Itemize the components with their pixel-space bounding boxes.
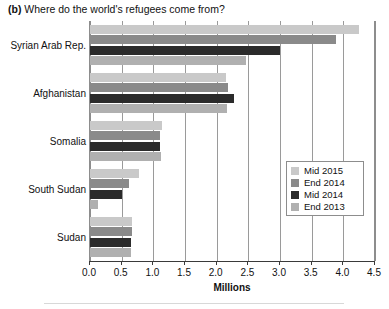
x-axis-tick — [374, 261, 375, 265]
bar — [90, 131, 160, 140]
x-axis-tick — [152, 261, 153, 265]
bar — [90, 142, 160, 151]
category-label: Syrian Arab Rep. — [2, 40, 86, 51]
bottom-divider — [44, 303, 344, 304]
x-axis-tick-label: 0.0 — [82, 267, 96, 278]
chart-legend: Mid 2015End 2014Mid 2014End 2013 — [286, 161, 364, 216]
bar — [90, 104, 227, 113]
x-axis-tick — [247, 261, 248, 265]
legend-swatch-icon — [291, 167, 299, 175]
bar — [90, 238, 131, 247]
category-label: Afghanistan — [2, 88, 86, 99]
plot-inner — [90, 21, 375, 261]
gridline — [280, 21, 281, 261]
plot-area — [89, 21, 376, 261]
x-axis-tick-label: 4.0 — [335, 267, 349, 278]
x-axis-line — [89, 261, 375, 262]
bar — [90, 56, 246, 65]
bar — [90, 35, 336, 44]
category-label: South Sudan — [2, 184, 86, 195]
bar — [90, 169, 139, 178]
category-axis-labels: Syrian Arab Rep.AfghanistanSomaliaSouth … — [0, 0, 86, 309]
bar — [90, 46, 280, 55]
bar — [90, 217, 132, 226]
legend-item: Mid 2015 — [291, 165, 359, 176]
x-axis-tick-label: 2.0 — [209, 267, 223, 278]
x-axis-tick — [311, 261, 312, 265]
bar — [90, 227, 132, 236]
x-axis-tick-label: 2.5 — [240, 267, 254, 278]
bar — [90, 94, 234, 103]
x-axis-tick-label: 1.5 — [177, 267, 191, 278]
legend-item: Mid 2014 — [291, 189, 359, 200]
x-axis-tick — [216, 261, 217, 265]
legend-label: Mid 2015 — [304, 165, 343, 176]
bar — [90, 190, 122, 199]
bar — [90, 121, 162, 130]
bar — [90, 83, 228, 92]
bar — [90, 73, 226, 82]
legend-item: End 2014 — [291, 177, 359, 188]
category-label: Somalia — [2, 136, 86, 147]
x-axis-tick-label: 1.0 — [145, 267, 159, 278]
gridline — [248, 21, 249, 261]
legend-swatch-icon — [291, 203, 299, 211]
category-label: Sudan — [2, 232, 86, 243]
x-axis-tick — [342, 261, 343, 265]
x-axis-tick — [89, 261, 90, 265]
bar — [90, 248, 131, 257]
legend-label: Mid 2014 — [304, 189, 343, 200]
x-axis-tick-label: 3.0 — [272, 267, 286, 278]
legend-label: End 2014 — [304, 177, 345, 188]
gridline — [374, 21, 375, 261]
gridline — [343, 21, 344, 261]
bar — [90, 152, 161, 161]
gridline — [312, 21, 313, 261]
x-axis-tick — [184, 261, 185, 265]
x-axis-tick-label: 4.5 — [367, 267, 381, 278]
legend-swatch-icon — [291, 179, 299, 187]
bar — [90, 179, 129, 188]
x-axis-tick-label: 0.5 — [114, 267, 128, 278]
x-axis-tick — [121, 261, 122, 265]
legend-item: End 2013 — [291, 201, 359, 212]
legend-label: End 2013 — [304, 201, 345, 212]
legend-swatch-icon — [291, 191, 299, 199]
x-axis-tick-label: 3.5 — [304, 267, 318, 278]
x-axis-title: Millions — [89, 282, 375, 293]
x-axis-tick — [279, 261, 280, 265]
bar — [90, 200, 98, 209]
bar — [90, 25, 359, 34]
